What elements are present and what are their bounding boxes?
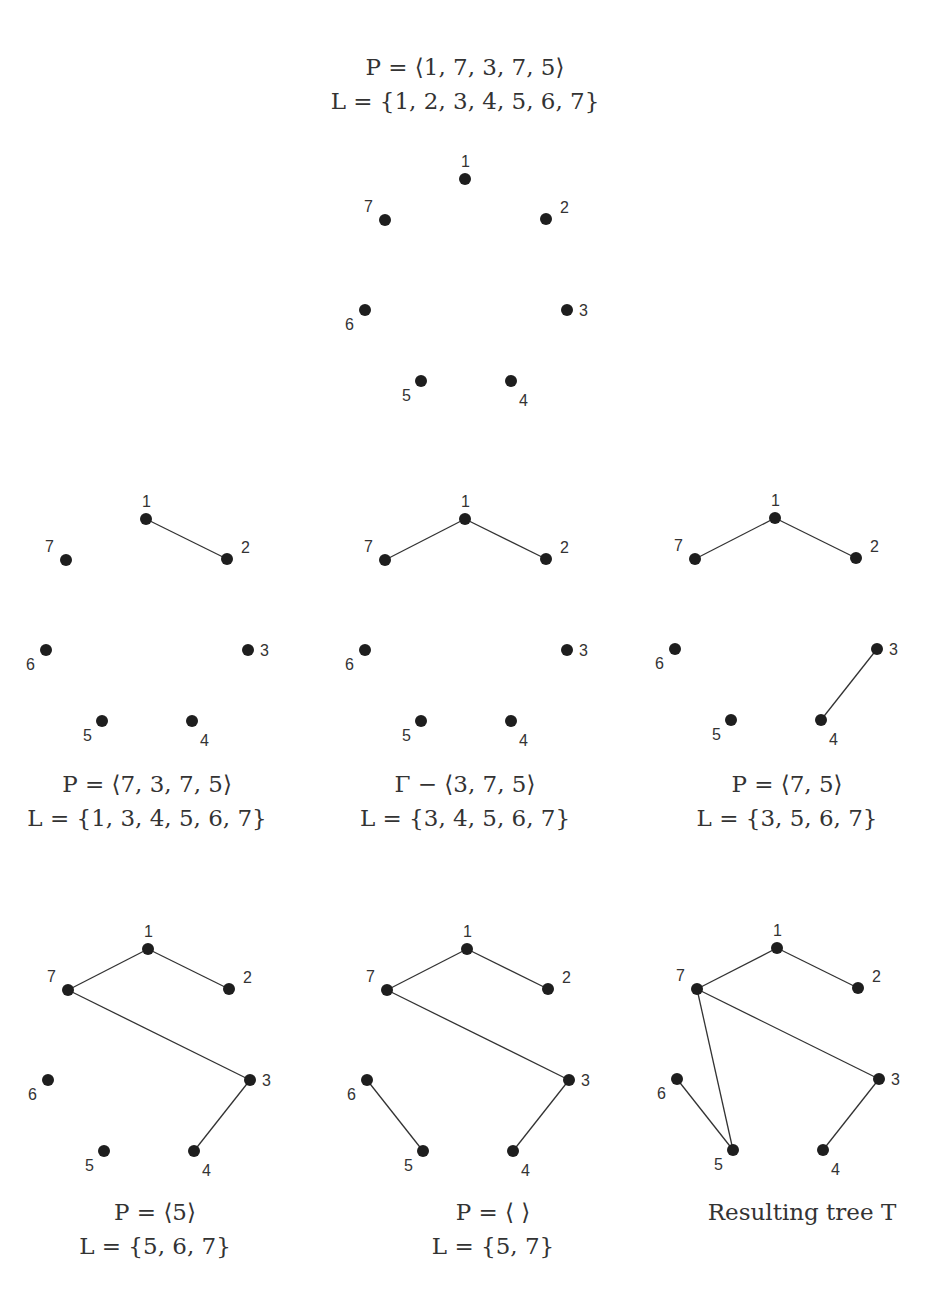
graph-panel-step5: 1234567 [347,923,590,1179]
node-label-3: 3 [891,1071,900,1088]
node-7 [379,214,391,226]
node-label-1: 1 [771,492,780,509]
node-5 [415,375,427,387]
edge-7-3 [697,989,879,1079]
node-7 [62,984,74,996]
node-6 [671,1073,683,1085]
edge-1-2 [465,519,546,559]
node-1 [459,513,471,525]
node-3 [242,644,254,656]
edge-3-4 [821,649,877,720]
edge-1-7 [68,949,148,990]
node-label-6: 6 [655,655,664,672]
node-4 [505,715,517,727]
edge-1-2 [146,519,227,559]
caption-step2: Γ − ⟨3, 7, 5⟩ L = {3, 4, 5, 6, 7} [315,767,615,835]
caption-step5: P = ⟨ ⟩ L = {5, 7} [343,1195,643,1263]
node-label-6: 6 [345,316,354,333]
edge-3-4 [194,1080,250,1151]
node-7 [691,983,703,995]
node-label-4: 4 [829,731,838,748]
edge-3-4 [513,1080,569,1151]
node-label-2: 2 [870,538,879,555]
node-label-4: 4 [521,1162,530,1179]
node-5 [727,1144,739,1156]
node-label-4: 4 [519,732,528,749]
node-label-1: 1 [463,923,472,940]
node-label-2: 2 [562,969,571,986]
node-label-3: 3 [260,642,269,659]
node-label-4: 4 [831,1161,840,1178]
node-6 [42,1074,54,1086]
node-3 [563,1074,575,1086]
edge-7-5 [697,989,733,1150]
caption-step4-sequence: P = ⟨5⟩ [5,1195,305,1229]
node-4 [815,714,827,726]
node-4 [505,375,517,387]
node-3 [873,1073,885,1085]
node-1 [769,512,781,524]
node-5 [415,715,427,727]
node-label-1: 1 [461,153,470,170]
node-1 [771,942,783,954]
node-5 [725,714,737,726]
node-3 [871,643,883,655]
node-label-2: 2 [872,968,881,985]
node-2 [540,213,552,225]
node-label-1: 1 [461,493,470,510]
graph-panel-result: 1234567 [657,922,900,1178]
node-label-7: 7 [47,968,56,985]
caption-step1: P = ⟨7, 3, 7, 5⟩ L = {1, 3, 4, 5, 6, 7} [0,767,297,835]
caption-step5-sequence: P = ⟨ ⟩ [343,1195,643,1229]
edge-6-5 [367,1080,423,1151]
graph-panel-step4: 1234567 [28,923,271,1179]
graph-panel-step1: 1234567 [26,493,269,749]
node-label-5: 5 [404,1157,413,1174]
node-label-3: 3 [579,302,588,319]
node-label-6: 6 [26,656,35,673]
node-4 [507,1145,519,1157]
graph-panel-step3: 1234567 [655,492,898,748]
node-label-1: 1 [773,922,782,939]
node-label-4: 4 [519,392,528,409]
graph-panel-step2: 1234567 [345,493,588,749]
caption-initial-leaves: L = {1, 2, 3, 4, 5, 6, 7} [315,84,615,118]
node-label-2: 2 [560,539,569,556]
node-7 [689,553,701,565]
edge-1-2 [467,949,548,989]
node-6 [359,304,371,316]
node-6 [359,644,371,656]
edge-1-2 [775,518,856,558]
node-label-1: 1 [144,923,153,940]
node-6 [361,1074,373,1086]
caption-step2-sequence: Γ − ⟨3, 7, 5⟩ [315,767,615,801]
node-label-2: 2 [243,969,252,986]
edge-7-3 [68,990,250,1080]
node-7 [60,554,72,566]
edge-1-7 [695,518,775,559]
node-label-7: 7 [366,968,375,985]
node-1 [461,943,473,955]
node-label-5: 5 [402,387,411,404]
node-2 [223,983,235,995]
edge-1-7 [697,948,777,989]
edge-1-2 [148,949,229,989]
node-label-2: 2 [241,539,250,556]
node-label-3: 3 [262,1072,271,1089]
caption-step4-leaves: L = {5, 6, 7} [5,1229,305,1263]
node-5 [417,1145,429,1157]
node-2 [542,983,554,995]
node-label-7: 7 [674,537,683,554]
node-7 [381,984,393,996]
edge-3-4 [823,1079,879,1150]
caption-result: Resulting tree T [652,1195,926,1229]
node-7 [379,554,391,566]
node-label-3: 3 [579,642,588,659]
caption-result-title: Resulting tree T [652,1195,926,1229]
caption-step3: P = ⟨7, 5⟩ L = {3, 5, 6, 7} [637,767,926,835]
node-label-2: 2 [560,199,569,216]
node-2 [852,982,864,994]
node-label-7: 7 [364,198,373,215]
caption-step1-leaves: L = {1, 3, 4, 5, 6, 7} [0,801,297,835]
node-label-6: 6 [28,1086,37,1103]
